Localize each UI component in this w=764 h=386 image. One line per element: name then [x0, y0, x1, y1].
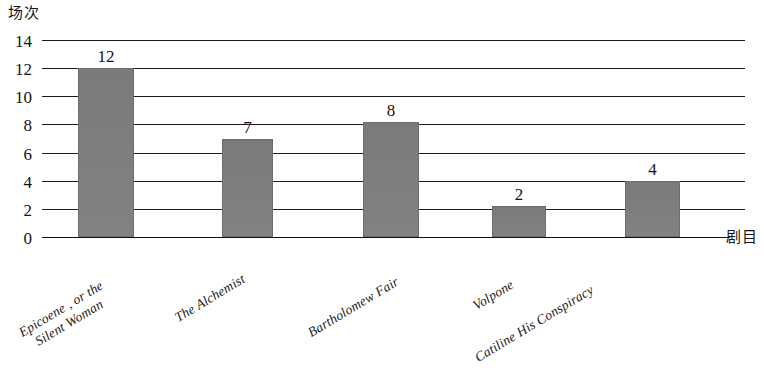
bar-value-catiline-his-conspiracy: 4	[648, 161, 657, 179]
bar-chart: 场次 剧目 14 12 10 8 6 4 2 0 12	[0, 0, 764, 386]
y-axis-title: 场次	[8, 4, 39, 22]
x-label-the-alchemist: The Alchemist	[172, 271, 248, 326]
bar-epicoene[interactable]: 12	[78, 68, 134, 237]
y-tick-label-6: 6	[24, 145, 33, 162]
x-label-epicoene: Epicoene , or the Silent Woman	[16, 278, 114, 355]
bar-value-bartholomew-fair: 8	[387, 102, 396, 120]
y-tick-label-14: 14	[15, 33, 32, 50]
x-label-bartholomew-fair: Bartholomew Fair	[305, 274, 402, 341]
y-tick-label-8: 8	[24, 117, 33, 134]
bar-bartholomew-fair[interactable]: 8	[363, 122, 419, 237]
y-tick-label-12: 12	[15, 61, 32, 78]
x-axis-baseline: 0	[42, 237, 730, 238]
gridline-12: 12	[42, 68, 745, 69]
gridline-10: 10	[42, 96, 745, 97]
y-tick-label-2: 2	[24, 201, 33, 218]
bar-value-the-alchemist: 7	[243, 119, 252, 137]
bar-the-alchemist[interactable]: 7	[222, 139, 273, 238]
y-tick-label-4: 4	[24, 173, 33, 190]
bar-value-volpone: 2	[515, 186, 524, 204]
gridline-14: 14	[42, 40, 745, 41]
y-tick-label-0: 0	[24, 230, 33, 247]
x-label-volpone: Volpone	[470, 277, 517, 314]
y-tick-label-10: 10	[15, 89, 32, 106]
bar-volpone[interactable]: 2	[492, 206, 546, 238]
bar-value-epicoene: 12	[98, 48, 115, 66]
bar-catiline-his-conspiracy[interactable]: 4	[625, 181, 680, 237]
plot-area: 14 12 10 8 6 4 2 0 12 7 8	[78, 40, 745, 237]
